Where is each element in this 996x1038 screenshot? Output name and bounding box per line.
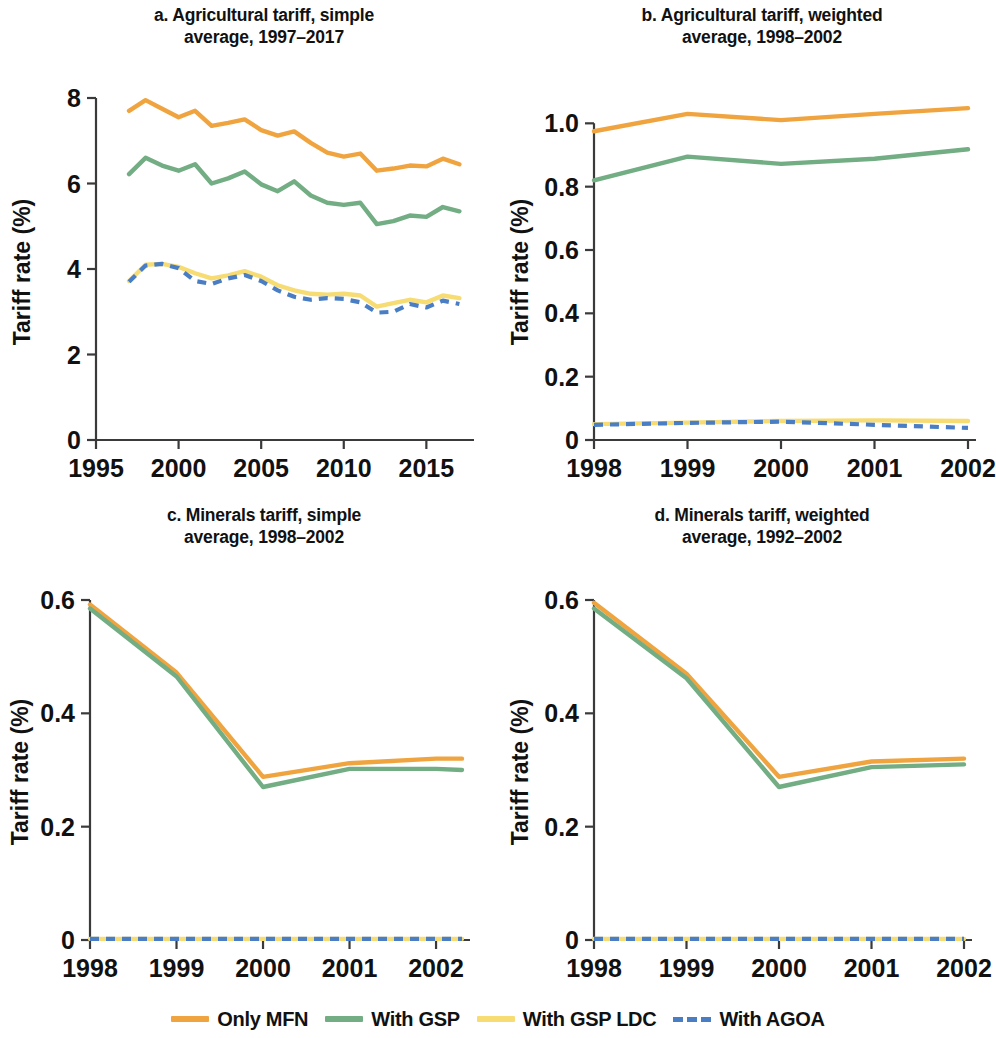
x-tick-label: 2002 xyxy=(408,954,464,982)
x-tick-label: 1998 xyxy=(62,954,118,982)
legend-item-only-mfn: Only MFN xyxy=(171,1008,308,1031)
x-tick-label: 2002 xyxy=(936,954,992,982)
legend-swatch-icon xyxy=(477,1016,515,1022)
y-tick-label: 8 xyxy=(67,84,81,112)
x-tick-label: 1995 xyxy=(68,454,124,482)
y-axis-title: Tariff rate (%) xyxy=(7,699,33,846)
chart-panel-c: c. Minerals tariff, simple average, 1998… xyxy=(0,500,498,1000)
chart-panel-a: a. Agricultural tariff, simple average, … xyxy=(0,0,498,500)
y-tick-label: 0.6 xyxy=(40,586,75,614)
x-tick-label: 2000 xyxy=(753,454,809,482)
chart-panel-b: b. Agricultural tariff, weighted average… xyxy=(498,0,996,500)
legend-swatch-icon xyxy=(673,1017,711,1022)
legend-swatch-icon xyxy=(325,1016,363,1022)
x-tick-label: 2000 xyxy=(235,954,291,982)
y-tick-label: 0 xyxy=(61,926,75,954)
x-tick-label: 2000 xyxy=(151,454,207,482)
y-axis-title: Tariff rate (%) xyxy=(9,199,35,346)
legend-swatch-icon xyxy=(171,1016,209,1022)
x-tick-label: 2015 xyxy=(399,454,455,482)
x-tick-label: 2001 xyxy=(847,454,903,482)
y-tick-label: 0.2 xyxy=(40,813,75,841)
legend-label: Only MFN xyxy=(217,1008,308,1031)
y-tick-label: 1.0 xyxy=(544,109,579,137)
panel-c-plot: 00.20.40.619981999200020012002Tariff rat… xyxy=(0,500,498,1000)
y-tick-label: 0.4 xyxy=(544,299,579,327)
series-line-only-mfn xyxy=(594,603,964,777)
panel-b-plot: 00.20.40.60.81.019981999200020012002Tari… xyxy=(498,0,996,500)
legend-item-with-agoa: With AGOA xyxy=(673,1008,824,1031)
x-tick-label: 2005 xyxy=(233,454,289,482)
panel-d-plot: 00.20.40.619981999200020012002Tariff rat… xyxy=(498,500,996,1000)
legend-label: With GSP xyxy=(371,1008,460,1031)
x-tick-label: 1999 xyxy=(660,454,716,482)
legend-label: With GSP LDC xyxy=(523,1008,657,1031)
panel-a-plot: 0246819952000200520102015Tariff rate (%) xyxy=(0,0,498,500)
x-tick-label: 2001 xyxy=(844,954,900,982)
x-tick-label: 1999 xyxy=(149,954,205,982)
series-line-with-gsp xyxy=(594,149,968,180)
chart-panel-d: d. Minerals tariff, weighted average, 19… xyxy=(498,500,996,1000)
chart-legend: Only MFNWith GSPWith GSP LDCWith AGOA xyxy=(0,1000,996,1038)
series-line-with-gsp xyxy=(129,158,459,224)
y-tick-label: 0 xyxy=(565,426,579,454)
x-tick-label: 2002 xyxy=(940,454,996,482)
y-tick-label: 0.8 xyxy=(544,173,579,201)
y-axis-title: Tariff rate (%) xyxy=(507,199,533,346)
y-tick-label: 0.4 xyxy=(544,699,579,727)
y-tick-label: 6 xyxy=(67,170,81,198)
y-tick-label: 2 xyxy=(67,341,81,369)
y-tick-label: 0.2 xyxy=(544,363,579,391)
x-tick-label: 2001 xyxy=(322,954,378,982)
y-tick-label: 0.6 xyxy=(544,586,579,614)
x-tick-label: 2000 xyxy=(751,954,807,982)
x-tick-label: 1998 xyxy=(566,454,622,482)
y-tick-label: 0.6 xyxy=(544,236,579,264)
series-line-only-mfn xyxy=(90,605,462,777)
legend-label: With AGOA xyxy=(719,1008,824,1031)
series-line-with-gsp-ldc xyxy=(129,264,459,307)
x-tick-label: 1998 xyxy=(566,954,622,982)
y-axis-title: Tariff rate (%) xyxy=(507,699,533,846)
x-tick-label: 1999 xyxy=(659,954,715,982)
y-tick-label: 0.2 xyxy=(544,813,579,841)
y-tick-label: 0 xyxy=(67,426,81,454)
series-line-only-mfn xyxy=(594,108,968,131)
figure-four-panel-tariff-charts: a. Agricultural tariff, simple average, … xyxy=(0,0,996,1038)
legend-item-with-gsp-ldc: With GSP LDC xyxy=(477,1008,657,1031)
y-tick-label: 0 xyxy=(565,926,579,954)
series-line-only-mfn xyxy=(129,100,459,171)
y-tick-label: 4 xyxy=(67,255,81,283)
y-tick-label: 0.4 xyxy=(40,699,75,727)
x-tick-label: 2010 xyxy=(316,454,372,482)
legend-item-with-gsp: With GSP xyxy=(325,1008,460,1031)
